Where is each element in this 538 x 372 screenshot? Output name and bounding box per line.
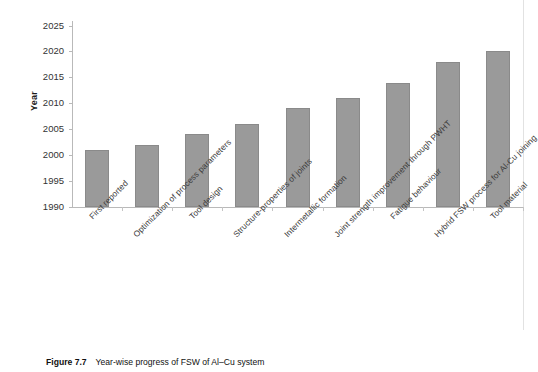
figure-caption: Figure 7.7Year-wise progress of FSW of A… xyxy=(46,357,264,367)
figure-caption-label: Figure 7.7 xyxy=(46,357,87,367)
y-axis-tick-label: 2005 xyxy=(18,124,64,134)
y-axis-tick-label: 1990 xyxy=(18,202,64,212)
y-axis-tick-label: 2000 xyxy=(18,150,64,160)
x-axis-tick-mark xyxy=(222,207,223,211)
y-axis-tick-label: 2025 xyxy=(18,21,64,31)
y-axis-tick-label: 2010 xyxy=(18,98,64,108)
x-axis-tick-mark xyxy=(473,207,474,211)
y-axis-line xyxy=(72,21,73,207)
y-axis-tick-label: 2020 xyxy=(18,46,64,56)
x-axis-tick-mark xyxy=(373,207,374,211)
x-axis-tick-mark xyxy=(172,207,173,211)
bar xyxy=(235,124,259,207)
x-axis-tick-mark xyxy=(122,207,123,211)
figure-caption-text: Year-wise progress of FSW of Al–Cu syste… xyxy=(96,357,265,367)
x-axis-tick-mark xyxy=(323,207,324,211)
bar xyxy=(135,145,159,207)
y-axis-tick-label: 1995 xyxy=(18,176,64,186)
x-axis-tick-mark xyxy=(423,207,424,211)
x-axis-tick-mark xyxy=(523,207,524,211)
y-axis-tick-label: 2015 xyxy=(18,72,64,82)
bar xyxy=(336,98,360,207)
x-axis-tick-mark xyxy=(272,207,273,211)
